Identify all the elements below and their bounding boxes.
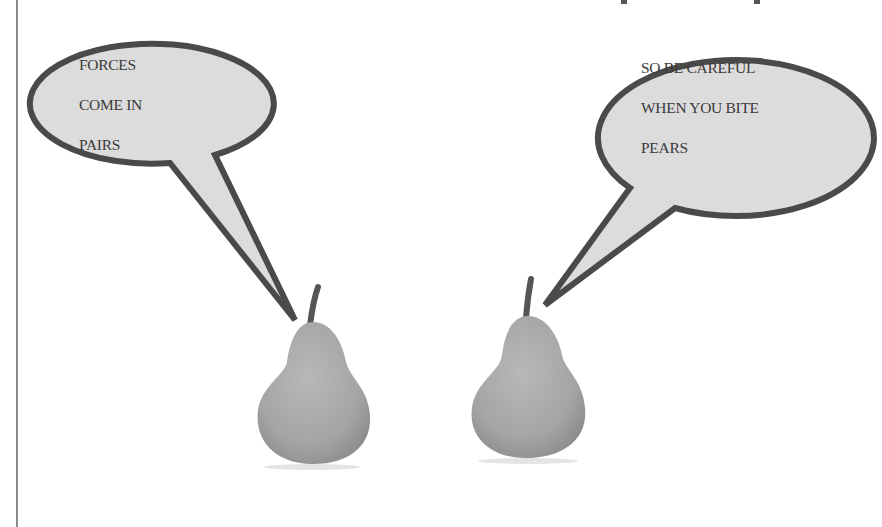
bubble-text-line: PEARS bbox=[641, 138, 759, 158]
bubble-text-line: SO BE CAREFUL bbox=[641, 58, 759, 78]
pear-right-body bbox=[472, 316, 586, 458]
bubble-text-line: COME IN bbox=[79, 95, 142, 115]
speech-bubble-left bbox=[30, 44, 295, 320]
pear-left-body bbox=[258, 322, 371, 464]
speech-bubble-left-text: FORCES COME IN PAIRS bbox=[79, 35, 142, 175]
bubble-text-line: FORCES bbox=[79, 55, 142, 75]
pear-left bbox=[258, 287, 371, 470]
pear-right-stem bbox=[526, 279, 531, 318]
pear-right bbox=[472, 279, 586, 464]
bubble-text-line: WHEN YOU BITE bbox=[641, 98, 759, 118]
pear-left-stem bbox=[310, 287, 318, 325]
speech-bubble-right-text: SO BE CAREFUL WHEN YOU BITE PEARS bbox=[641, 38, 759, 178]
bubble-text-line: PAIRS bbox=[79, 135, 142, 155]
speech-bubble-left-shape bbox=[30, 44, 295, 320]
